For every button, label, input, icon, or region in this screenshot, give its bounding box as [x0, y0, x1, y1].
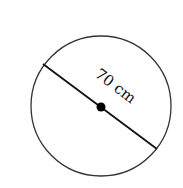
circle-diagram: 70 cm [0, 0, 183, 188]
center-point [97, 103, 106, 112]
diameter-label: 70 cm [92, 65, 140, 107]
